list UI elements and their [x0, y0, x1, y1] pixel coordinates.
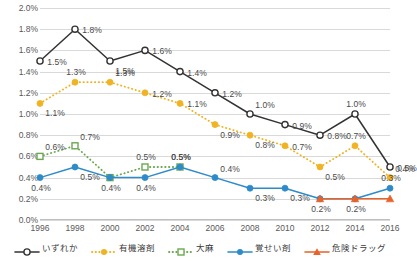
y-axis-tick-label: 2.0% [2, 4, 38, 13]
x-axis-tick-label: 2004 [171, 224, 190, 233]
data-point-label: 0.4% [220, 164, 239, 173]
y-axis-tick-label: 1.4% [2, 68, 38, 77]
data-point-label: 0.3% [255, 194, 274, 203]
legend-marker-icon [168, 243, 194, 253]
legend-label: いずれか [42, 244, 78, 253]
x-axis-tick-label: 1998 [66, 224, 85, 233]
legend-item[interactable]: 有機溶剤 [91, 243, 155, 253]
legend-marker-icon [304, 243, 330, 253]
data-point-label: 1.2% [152, 89, 171, 98]
data-point-marker [177, 164, 183, 170]
y-axis-tick-label: 0.2% [2, 195, 38, 204]
data-point-marker [177, 69, 183, 75]
y-axis-tick-label: 0.8% [2, 131, 38, 140]
data-point-label: 0.5% [171, 153, 190, 162]
x-axis-tick-label: 2014 [346, 224, 365, 233]
legend-item[interactable]: いずれか [14, 243, 78, 253]
data-point-label: 1.8% [82, 26, 101, 35]
data-point-label: 0.5% [325, 173, 344, 182]
data-point-label: 1.0% [255, 101, 274, 110]
y-axis-tick-label: 1.6% [2, 46, 38, 55]
legend-item[interactable]: 大麻 [168, 243, 214, 253]
data-point-marker [142, 90, 148, 96]
data-point-label: 1.2% [222, 89, 241, 98]
data-point-label: 0.4% [101, 183, 120, 192]
legend-marker-icon [14, 243, 40, 253]
legend-label: 有機溶剤 [119, 244, 155, 253]
data-point-label: 0.9% [220, 130, 239, 139]
data-point-label: 0.4% [31, 183, 50, 192]
plot-area: 1.5%1.8%1.5%1.6%1.4%1.2%1.0%0.9%0.8%1.0%… [40, 8, 390, 220]
data-point-label: 0.5% [80, 173, 99, 182]
y-axis-tick-label: 1.8% [2, 25, 38, 34]
series-line [40, 29, 390, 167]
data-point-label: 1.1% [45, 109, 64, 118]
y-axis-tick-label: 0.4% [2, 174, 38, 183]
data-point-marker [247, 111, 253, 117]
data-point-label: 1.3% [66, 68, 85, 77]
x-axis-tick-label: 2012 [311, 224, 330, 233]
data-point-marker [142, 175, 148, 181]
data-point-label: 0.9% [292, 121, 311, 130]
gridline [40, 220, 390, 221]
data-point-label: 0.6% [45, 143, 64, 152]
data-point-label: 0.7% [346, 131, 365, 140]
x-axis-tick-label: 1996 [31, 224, 50, 233]
legend-label: 大麻 [196, 244, 214, 253]
data-point-label: 0.7% [80, 132, 99, 141]
data-point-marker [37, 175, 43, 181]
x-axis-tick-label: 2008 [241, 224, 260, 233]
series-layer [40, 8, 390, 220]
data-point-marker [247, 185, 253, 191]
data-point-marker [72, 143, 78, 149]
data-point-marker [387, 185, 393, 191]
data-point-label: 1.0% [346, 100, 365, 109]
data-point-label: 0.3% [381, 174, 400, 183]
data-point-marker [247, 132, 253, 138]
data-point-label: 1.5% [47, 58, 66, 67]
data-point-marker [72, 79, 78, 85]
x-axis-labels: 1996199820002002200420062008201020122014… [40, 224, 390, 236]
data-point-label: 0.3% [290, 194, 309, 203]
data-point-label: 1.4% [187, 68, 206, 77]
data-point-label: 0.2% [346, 204, 365, 213]
legend-marker-icon [227, 243, 253, 253]
data-point-label: 1.6% [152, 47, 171, 56]
data-point-marker [72, 164, 78, 170]
data-point-marker [177, 100, 183, 106]
data-point-marker [282, 122, 288, 128]
data-point-marker [352, 111, 358, 117]
data-point-marker [212, 175, 218, 181]
data-point-label: 0.7% [292, 142, 311, 151]
data-point-marker [317, 132, 323, 138]
data-point-label: 0.5% [136, 153, 155, 162]
data-point-label: 0.8% [255, 141, 274, 150]
y-axis-tick-label: 1.0% [2, 110, 38, 119]
data-point-label: 0.2% [311, 204, 330, 213]
data-point-label: 0.4% [136, 183, 155, 192]
data-point-marker [107, 79, 113, 85]
legend-label: 危険ドラッグ [332, 244, 386, 253]
legend-item[interactable]: 危険ドラッグ [304, 243, 386, 253]
data-point-label: 1.1% [187, 100, 206, 109]
legend-label: 覚せい剤 [255, 244, 291, 253]
data-point-marker [212, 90, 218, 96]
data-point-marker [37, 153, 43, 159]
data-point-marker [212, 122, 218, 128]
data-point-marker [107, 58, 113, 64]
y-axis-tick-label: 0.6% [2, 152, 38, 161]
y-axis-tick-label: 1.2% [2, 89, 38, 98]
data-point-marker [282, 143, 288, 149]
data-point-marker [142, 164, 148, 170]
data-point-marker [282, 185, 288, 191]
x-axis-tick-label: 2006 [206, 224, 225, 233]
data-point-marker [37, 100, 43, 106]
data-point-label: 1.3% [115, 69, 134, 78]
x-axis-tick-label: 2002 [136, 224, 155, 233]
legend-item[interactable]: 覚せい剤 [227, 243, 291, 253]
data-point-marker [142, 47, 148, 53]
chart-legend: いずれか有機溶剤大麻覚せい剤危険ドラッグ [0, 239, 400, 257]
data-point-marker [317, 164, 323, 170]
x-axis-tick-label: 2000 [101, 224, 120, 233]
legend-marker-icon [91, 243, 117, 253]
